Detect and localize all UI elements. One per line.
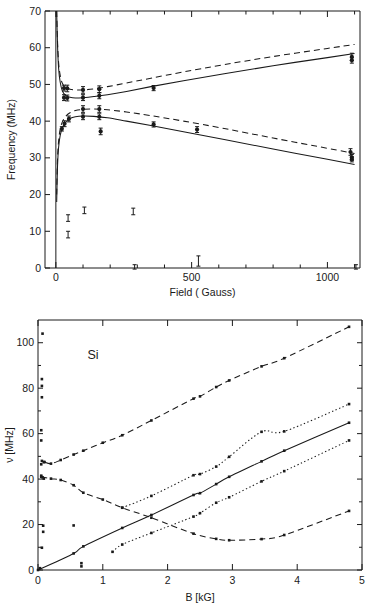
bottom-data-point xyxy=(102,498,105,501)
bottom-data-point xyxy=(260,538,263,541)
bottom-data-point xyxy=(192,515,195,518)
bottom-xtick-label: 4 xyxy=(294,574,300,586)
bottom-data-point xyxy=(228,379,231,382)
bottom-data-point xyxy=(283,357,286,360)
top-data-point xyxy=(348,150,352,154)
top-ytick-label: 30 xyxy=(29,151,41,163)
top-data-point xyxy=(152,122,156,126)
top-ytick-label: 0 xyxy=(35,262,41,274)
bottom-xlabel: B [kG] xyxy=(185,591,214,603)
bottom-data-point xyxy=(72,524,75,527)
bottom-data-point xyxy=(41,546,44,549)
bottom-curve-branch-B-descending-dashed xyxy=(41,477,349,540)
bottom-data-point xyxy=(80,565,83,568)
bottom-data-point xyxy=(50,477,53,480)
top-data-point xyxy=(99,129,103,133)
top-ytick-label: 60 xyxy=(29,41,41,53)
bottom-data-point xyxy=(121,434,124,437)
bottom-data-point xyxy=(41,385,44,388)
bottom-data-point xyxy=(150,532,153,535)
top-data-point xyxy=(350,157,354,161)
top-data-point xyxy=(65,86,69,90)
bottom-data-point xyxy=(121,527,124,530)
top-axis-labels: 01020304050607005001000Frequency (MHz)Fi… xyxy=(5,5,339,298)
bottom-data-point xyxy=(192,532,195,535)
bottom-ytick-label: 100 xyxy=(16,336,34,348)
bottom-ytick-label: 0 xyxy=(28,564,34,576)
bottom-data-point xyxy=(283,430,286,433)
bottom-data-point xyxy=(42,524,45,527)
top-axes xyxy=(45,11,360,268)
bottom-data-point xyxy=(199,512,202,515)
top-ytick-label: 70 xyxy=(29,5,41,17)
bottom-data-point xyxy=(260,431,263,434)
bottom-chart-svg: 020406080100012345ν [MHz]B [kG]Si xyxy=(0,300,383,608)
bottom-axis-labels: 020406080100012345ν [MHz]B [kG]Si xyxy=(3,336,365,603)
bottom-data-point xyxy=(215,483,218,486)
bottom-data-point xyxy=(215,501,218,504)
bottom-ytick-label: 80 xyxy=(22,382,34,394)
bottom-data-point xyxy=(215,538,218,541)
bottom-data-point xyxy=(50,462,53,465)
bottom-data-point xyxy=(260,365,263,368)
top-data-point xyxy=(97,107,101,111)
bottom-xtick-label: 3 xyxy=(229,574,235,586)
bottom-data-point xyxy=(43,461,46,464)
bottom-data-point xyxy=(228,476,231,479)
bottom-data-point xyxy=(348,510,351,513)
bottom-xtick-label: 0 xyxy=(35,574,41,586)
bottom-ytick-label: 20 xyxy=(22,518,34,530)
bottom-data-point xyxy=(228,496,231,499)
top-data-point xyxy=(81,107,85,111)
bottom-data-point xyxy=(72,453,75,456)
panel-top-frequency-vs-field: 01020304050607005001000Frequency (MHz)Fi… xyxy=(0,0,383,300)
bottom-data-point xyxy=(348,439,351,442)
panel-bottom-nu-vs-B: 020406080100012345ν [MHz]B [kG]Si xyxy=(0,300,383,608)
top-data-points xyxy=(60,53,358,269)
bottom-curve-branch-D-dotted-lower xyxy=(113,440,350,551)
bottom-data-point xyxy=(41,396,44,399)
bottom-data-point xyxy=(215,465,218,468)
bottom-ylabel: ν [MHz] xyxy=(3,427,15,463)
bottom-data-point xyxy=(228,539,231,542)
bottom-data-point xyxy=(192,474,195,477)
top-xtick-label: 0 xyxy=(53,271,59,283)
top-ytick-label: 10 xyxy=(29,225,41,237)
bottom-data-point xyxy=(102,441,105,444)
bottom-sample-annotation: Si xyxy=(88,348,99,362)
bottom-data-point xyxy=(348,403,351,406)
top-data-point xyxy=(62,122,66,126)
bottom-data-point xyxy=(283,470,286,473)
bottom-data-point xyxy=(260,480,263,483)
bottom-data-point xyxy=(199,395,202,398)
bottom-data-point xyxy=(283,449,286,452)
top-data-point xyxy=(97,87,101,91)
bottom-data-point xyxy=(42,531,45,534)
top-data-point xyxy=(81,115,85,119)
top-data-point xyxy=(65,96,69,100)
bottom-data-point xyxy=(59,479,62,482)
bottom-data-point xyxy=(80,562,83,565)
top-ytick-label: 50 xyxy=(29,78,41,90)
bottom-data-point xyxy=(228,456,231,459)
bottom-data-point xyxy=(40,439,43,442)
bottom-data-point xyxy=(82,545,85,548)
bottom-data-point xyxy=(72,552,75,555)
top-curve-lower-branch-dashed-theory xyxy=(57,109,355,195)
bottom-data-point xyxy=(192,494,195,497)
bottom-data-point xyxy=(348,421,351,424)
top-ylabel: Frequency (MHz) xyxy=(5,99,17,180)
top-xtick-label: 1000 xyxy=(316,271,340,283)
bottom-curve-branch-E-linear-solid xyxy=(38,423,349,570)
bottom-data-point xyxy=(82,491,85,494)
bottom-data-point xyxy=(72,484,75,487)
bottom-data-point xyxy=(111,551,114,554)
top-data-point xyxy=(195,127,199,131)
top-data-point xyxy=(97,94,101,98)
bottom-data-point xyxy=(43,477,46,480)
bottom-data-point xyxy=(150,514,153,517)
top-xtick-label: 500 xyxy=(183,271,201,283)
bottom-data-point xyxy=(150,516,153,519)
bottom-data-point xyxy=(39,567,42,570)
top-ytick-label: 40 xyxy=(29,115,41,127)
